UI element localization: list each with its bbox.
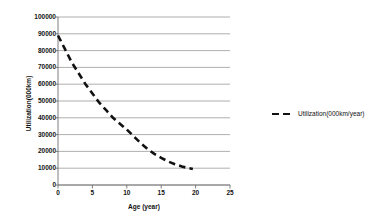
gridlines — [58, 17, 230, 185]
legend-entry-label: Utilization(000km/year) — [298, 111, 364, 118]
legend-dashed-line-icon — [272, 110, 294, 118]
data-series-utilization — [58, 35, 193, 169]
chart-legend: Utilization(000km/year) — [272, 110, 364, 118]
axis-tickmarks — [55, 17, 230, 189]
chart-container: Utilization(000km) 100000900008000070000… — [0, 0, 392, 224]
